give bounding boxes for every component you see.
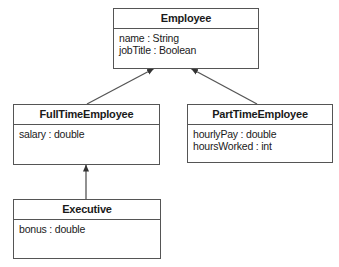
attribute: hoursWorked : int — [193, 140, 327, 152]
class-parttimeemployee: PartTimeEmployee hourlyPay : double hour… — [187, 104, 333, 163]
class-employee: Employee name : String jobTitle : Boolea… — [113, 8, 259, 69]
attribute: hourlyPay : double — [193, 128, 327, 140]
attribute-list: hourlyPay : double hoursWorked : int — [188, 125, 332, 152]
class-name: Employee — [114, 9, 258, 29]
attribute: salary : double — [19, 128, 154, 140]
class-executive: Executive bonus : double — [13, 199, 161, 259]
attribute-list: name : String jobTitle : Boolean — [114, 29, 258, 56]
attribute-list: bonus : double — [14, 220, 160, 235]
attribute: bonus : double — [19, 223, 155, 235]
class-name: FullTimeEmployee — [14, 105, 159, 125]
attribute: jobTitle : Boolean — [119, 44, 253, 56]
class-name: PartTimeEmployee — [188, 105, 332, 125]
attribute: name : String — [119, 32, 253, 44]
attribute-list: salary : double — [14, 125, 159, 140]
class-name: Executive — [14, 200, 160, 220]
class-fulltimeemployee: FullTimeEmployee salary : double — [13, 104, 160, 165]
parttime-to-employee-arrow — [191, 69, 257, 105]
fulltime-to-employee-arrow — [87, 69, 154, 105]
